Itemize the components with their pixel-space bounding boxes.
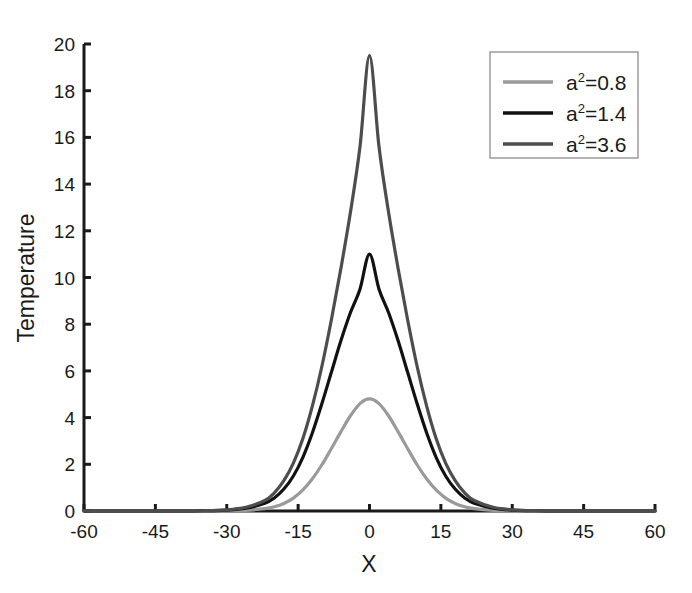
legend-exponent: 2	[578, 132, 585, 147]
legend-label[interactable]: a2=1.4	[566, 101, 627, 125]
y-tick-label: 8	[64, 314, 75, 335]
x-tick-label: -45	[142, 521, 169, 542]
y-tick-label: 18	[54, 81, 75, 102]
y-tick-label: 12	[54, 221, 75, 242]
y-tick-label: 2	[64, 454, 75, 475]
y-tick-label: 16	[54, 127, 75, 148]
x-axis-label: X	[361, 551, 376, 577]
x-tick-label: 0	[364, 521, 375, 542]
x-tick-label: 45	[573, 521, 594, 542]
x-tick-label: -15	[284, 521, 311, 542]
figure-container: -60-45-30-15015304560 02468101214161820 …	[0, 0, 692, 593]
legend-label[interactable]: a2=0.8	[566, 70, 626, 94]
y-tick-label: 6	[64, 361, 75, 382]
y-tick-label: 4	[64, 408, 75, 429]
legend-value: =1.4	[585, 102, 627, 125]
y-axis-label: Temperature	[13, 213, 39, 342]
legend-exponent: 2	[578, 70, 585, 85]
legend-value: =3.6	[585, 133, 626, 156]
y-tick-label: 20	[54, 34, 75, 55]
y-tick-label: 10	[54, 268, 75, 289]
x-tick-label: 60	[644, 521, 665, 542]
legend-label[interactable]: a2=3.6	[566, 132, 626, 156]
legend[interactable]: a2=0.8a2=1.4a2=3.6	[490, 52, 638, 158]
x-tick-label: 30	[502, 521, 523, 542]
x-tick-labels: -60-45-30-15015304560	[70, 521, 665, 542]
x-tick-label: -30	[213, 521, 240, 542]
y-tick-label: 0	[64, 501, 75, 522]
y-tick-labels: 02468101214161820	[54, 34, 76, 522]
x-tick-label: -60	[70, 521, 97, 542]
legend-value: =0.8	[585, 71, 626, 94]
legend-exponent: 2	[578, 101, 585, 116]
chart-svg: -60-45-30-15015304560 02468101214161820 …	[0, 0, 692, 593]
y-tick-label: 14	[54, 174, 76, 195]
x-tick-label: 15	[430, 521, 451, 542]
